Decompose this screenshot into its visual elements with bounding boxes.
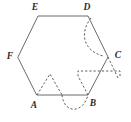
- vertex-label-B: B: [89, 98, 96, 108]
- vertex-label-F: F: [6, 51, 14, 61]
- dashed-overlay-group: [37, 18, 120, 109]
- geometry-figure-svg: A B C D E F: [0, 0, 131, 122]
- vertex-label-D: D: [83, 2, 91, 12]
- dashed-peak-above-A: [37, 74, 62, 95]
- hexagon-outline: [18, 16, 108, 95]
- vertex-label-A: A: [30, 100, 37, 110]
- vertex-label-C: C: [115, 50, 122, 60]
- vertex-label-group: A B C D E F: [6, 2, 122, 110]
- geometry-figure-container: A B C D E F: [0, 0, 131, 122]
- dashed-arc-D-to-C: [84, 18, 103, 56]
- hexagon-solid-edges: [18, 16, 108, 95]
- dashed-arc-below-AB: [62, 95, 88, 109]
- vertex-label-E: E: [31, 2, 38, 12]
